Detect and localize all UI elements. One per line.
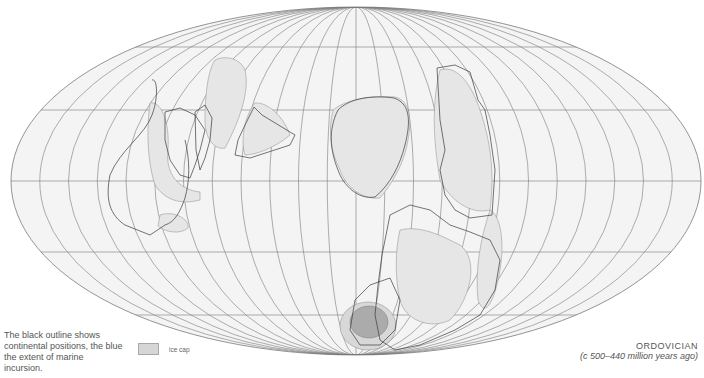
ice-cap-swatch bbox=[138, 343, 159, 355]
map-caption: The black outline shows continental posi… bbox=[4, 330, 124, 374]
world-map bbox=[0, 0, 704, 378]
period-range: (c 500–440 million years ago) bbox=[580, 351, 698, 361]
period-name: ORDOVICIAN bbox=[580, 341, 698, 351]
legend: ice cap bbox=[138, 343, 190, 355]
ice-cap bbox=[350, 306, 388, 338]
legend-label-ice-cap: ice cap bbox=[169, 346, 190, 353]
map-title: ORDOVICIAN (c 500–440 million years ago) bbox=[580, 341, 698, 361]
